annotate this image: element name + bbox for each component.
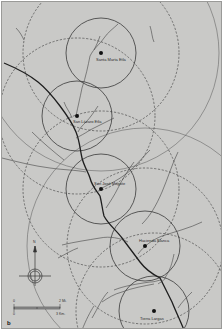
map-figure: Santa Marta Etla San Lázaro Etla San Jos… bbox=[0, 0, 224, 330]
scale-label-mi-zero: 0 bbox=[13, 299, 15, 303]
site-label-san-jose: San José Mogote bbox=[94, 182, 125, 186]
panel-label: b bbox=[7, 320, 11, 326]
map-canvas bbox=[2, 2, 222, 329]
site-dot-tierra bbox=[152, 309, 156, 313]
site-dot-hacienda bbox=[143, 244, 147, 248]
map-panel: Santa Marta Etla San Lázaro Etla San Jos… bbox=[1, 1, 222, 329]
north-label: N bbox=[33, 240, 36, 244]
outer-circle-santa-marta bbox=[23, 2, 179, 131]
tributaries bbox=[2, 24, 202, 329]
inner-catchment-circles bbox=[42, 18, 189, 329]
main-river bbox=[4, 63, 184, 329]
site-dot-san-lazaro bbox=[75, 114, 79, 118]
scale-label-mi: 2 Mi. bbox=[59, 299, 67, 303]
site-label-hacienda: Hacienda Blanca bbox=[139, 239, 169, 243]
scale-bar-graphic bbox=[14, 304, 60, 312]
site-label-san-lazaro: San Lázaro Etla bbox=[73, 120, 101, 124]
scale-label-km: 3 Km. bbox=[56, 312, 65, 316]
site-label-tierra: Tierra Largas bbox=[140, 317, 164, 321]
site-dot-san-jose bbox=[99, 187, 103, 191]
site-label-santa-marta: Santa Marta Etla bbox=[96, 58, 126, 62]
scale-label-km-zero: 0 bbox=[13, 312, 15, 316]
north-arrow-icon bbox=[19, 246, 51, 286]
inner-circle-tierra bbox=[119, 276, 189, 329]
site-dot-santa-marta bbox=[99, 51, 103, 55]
